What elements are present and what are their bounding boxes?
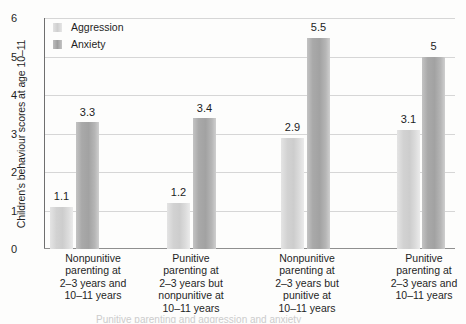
y-tick-0: 0 [0,243,17,255]
legend: Aggression Anxiety [53,20,124,54]
y-tick-5: 5 [0,51,17,63]
bar-anxiety-4 [422,57,445,249]
bar-label-anxiety-4: 5 [416,40,451,52]
x-axis-line [44,248,455,249]
bar-anxiety-3 [307,38,330,249]
category-label-3-line-3: 2–3 years but [252,277,362,289]
category-label-4-line-3: 2–3 years and [369,277,466,289]
bar-anxiety-1 [76,122,99,249]
legend-swatch-aggression-icon [53,23,62,32]
x-axis-category-labels: Nonpunitive parenting at 2–3 years and 1… [44,252,455,312]
legend-item-anxiety: Anxiety [53,37,124,52]
category-label-4-line-1: Punitive [369,252,466,264]
category-label-2-line-4: nonpunitive at [136,289,246,301]
category-label-1-line-2: parenting at [38,264,148,276]
category-label-1: Nonpunitive parenting at 2–3 years and 1… [38,252,148,302]
gridline-5 [45,57,455,58]
category-label-3: Nonpunitive parenting at 2–3 years but p… [252,252,362,314]
category-label-3-line-1: Nonpunitive [252,252,362,264]
category-label-2-line-2: parenting at [136,264,246,276]
legend-item-aggression: Aggression [53,20,124,35]
y-tick-4: 4 [0,89,17,101]
bar-label-aggression-3: 2.9 [275,121,310,133]
category-label-3-line-2: parenting at [252,264,362,276]
category-label-4-line-4: 10–11 years [369,289,466,301]
category-label-2-line-1: Punitive [136,252,246,264]
bar-label-aggression-4: 3.1 [391,113,426,125]
category-label-4-line-2: parenting at [369,264,466,276]
bar-chart: Children's behaviour scores at age 10–11… [0,0,466,324]
gridline-2 [45,172,455,173]
category-label-1-line-1: Nonpunitive [38,252,148,264]
bar-label-anxiety-1: 3.3 [70,106,105,118]
bar-aggression-2 [167,203,190,249]
category-label-3-line-5: 10–11 years [252,302,362,314]
gridline-1 [45,211,455,212]
legend-label-aggression: Aggression [71,22,124,33]
y-tick-6: 6 [0,12,17,24]
y-tick-3: 3 [0,128,17,140]
bar-label-aggression-1: 1.1 [44,190,79,202]
bar-label-anxiety-2: 3.4 [187,102,222,114]
category-label-1-line-3: 2–3 years and [38,277,148,289]
category-label-2-line-3: 2–3 years but [136,277,246,289]
caption-fragment: Punitive parenting and aggression and an… [96,314,396,323]
bar-label-aggression-2: 1.2 [161,186,196,198]
bar-aggression-3 [281,138,304,249]
category-label-2: Punitive parenting at 2–3 years but nonp… [136,252,246,314]
category-label-2-line-5: 10–11 years [136,302,246,314]
y-axis-line [44,18,45,249]
category-label-4: Punitive parenting at 2–3 years and 10–1… [369,252,466,302]
bar-label-anxiety-3: 5.5 [301,21,336,33]
bar-aggression-1 [50,207,73,249]
legend-swatch-anxiety-icon [53,40,62,49]
bar-aggression-4 [397,130,420,249]
legend-label-anxiety: Anxiety [71,39,105,50]
gridline-3 [45,134,455,135]
y-tick-1: 1 [0,205,17,217]
y-tick-2: 2 [0,166,17,178]
bar-anxiety-2 [193,118,216,249]
gridline-4 [45,95,455,96]
category-label-3-line-4: punitive at [252,289,362,301]
category-label-1-line-4: 10–11 years [38,289,148,301]
gridline-6 [45,18,455,19]
